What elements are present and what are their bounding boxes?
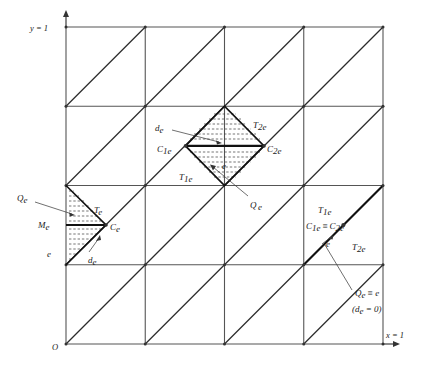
- label-Qe-equiv-e-right: Qe≡ e: [355, 288, 379, 300]
- node: [144, 184, 147, 187]
- label-e-left: e: [47, 249, 51, 259]
- node: [382, 26, 385, 29]
- node: [302, 26, 305, 29]
- triangulation-diagram: Qe Te Me Ce e de: [0, 0, 423, 372]
- diagonal-r4c1: [66, 265, 145, 344]
- node: [223, 263, 226, 266]
- x-axis-arrowhead: [393, 341, 400, 347]
- diagonal-r1c3: [225, 27, 304, 106]
- node: [302, 343, 305, 346]
- diagonal-r3c2: [145, 186, 224, 265]
- x-axis-label: x = 1: [385, 330, 404, 340]
- label-T2e-center: T2e: [253, 120, 267, 132]
- label-T2e-right: T2e: [352, 242, 366, 254]
- node: [302, 184, 305, 187]
- center-point-C2e: [262, 144, 266, 148]
- label-de-center: de: [155, 123, 164, 135]
- y-axis-label: y = 1: [29, 23, 48, 33]
- node: [302, 105, 305, 108]
- label-C1e-equiv-C2e-right: C1e≡C2e: [306, 221, 344, 233]
- origin-label: O: [52, 342, 58, 352]
- label-T1e-center: T1e: [179, 172, 193, 184]
- node: [65, 343, 68, 346]
- left-detail-group: Qe Te Me Ce e de: [17, 186, 120, 268]
- diagonal-r3c3: [225, 186, 304, 265]
- leader-de-center: [172, 130, 219, 142]
- diagonal-r1c1: [66, 27, 145, 106]
- node: [302, 263, 305, 266]
- diagonal-r4c2: [145, 265, 224, 344]
- label-e-right: e: [326, 239, 330, 249]
- label-Qe-center: Qe: [250, 200, 262, 212]
- node: [144, 343, 147, 346]
- label-e-center: e: [222, 161, 226, 171]
- figure-root: Qe Te Me Ce e de: [0, 0, 423, 372]
- node: [144, 263, 147, 266]
- node: [223, 343, 226, 346]
- diagonal-r4c3: [225, 265, 304, 344]
- right-detail-group: T1e C1e≡C2e e T2e Qe≡ e (de = 0): [306, 205, 382, 316]
- label-de-left: de: [88, 255, 97, 267]
- center-point-C1e: [184, 144, 188, 148]
- node: [65, 105, 68, 108]
- leader-de-center-arrowhead: [216, 141, 222, 145]
- label-Me-left: Me: [37, 220, 50, 232]
- leader-Qe-right: [325, 245, 352, 290]
- label-Qe-left: Qe: [17, 193, 28, 205]
- diagonal-r1c2: [145, 27, 224, 106]
- node: [382, 263, 385, 266]
- label-T1e-right: T1e: [318, 205, 332, 217]
- node: [382, 105, 385, 108]
- label-de-zero-right: (de = 0): [352, 304, 382, 316]
- left-point-Ce: [104, 223, 108, 227]
- node: [144, 105, 147, 108]
- leader-Qe-center-arrowhead: [210, 165, 216, 171]
- label-C1e-center: C1e: [157, 144, 172, 156]
- diagonal-r2c1: [66, 106, 145, 185]
- label-C2e-center: C2e: [267, 144, 282, 156]
- diagonal-r1c4: [304, 27, 383, 106]
- label-Ce-left: Ce: [110, 222, 120, 234]
- center-detail-group: de C1e C2e T2e T1e e Qe: [155, 106, 282, 212]
- leader-de-left-arrowhead: [96, 235, 101, 241]
- node: [223, 26, 226, 29]
- node: [144, 26, 147, 29]
- node: [382, 184, 385, 187]
- y-axis-arrowhead: [63, 10, 69, 17]
- diagonal-r2c4: [304, 106, 383, 185]
